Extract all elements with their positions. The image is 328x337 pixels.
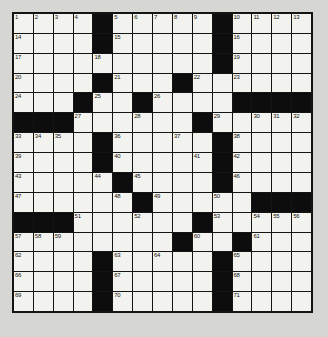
letter-cell[interactable] [173,292,192,311]
letter-cell[interactable] [173,252,192,271]
letter-cell[interactable]: 40 [113,153,132,172]
letter-cell[interactable] [34,292,53,311]
letter-cell[interactable]: 68 [233,272,252,291]
letter-cell[interactable] [213,93,232,112]
letter-cell[interactable] [193,252,212,271]
letter-cell[interactable] [153,54,172,73]
letter-cell[interactable] [272,173,291,192]
letter-cell[interactable] [54,153,73,172]
letter-cell[interactable] [252,272,271,291]
letter-cell[interactable] [54,173,73,192]
letter-cell[interactable] [34,173,53,192]
letter-cell[interactable]: 49 [153,193,172,212]
letter-cell[interactable] [292,252,311,271]
letter-cell[interactable] [252,292,271,311]
letter-cell[interactable] [153,34,172,53]
letter-cell[interactable]: 43 [14,173,33,192]
letter-cell[interactable]: 25 [93,93,112,112]
letter-cell[interactable]: 19 [233,54,252,73]
letter-cell[interactable] [74,34,93,53]
letter-cell[interactable] [34,272,53,291]
letter-cell[interactable]: 13 [292,14,311,33]
letter-cell[interactable]: 28 [133,113,152,132]
letter-cell[interactable]: 10 [233,14,252,33]
letter-cell[interactable] [93,233,112,252]
letter-cell[interactable] [34,34,53,53]
letter-cell[interactable]: 3 [54,14,73,33]
letter-cell[interactable] [93,213,112,232]
letter-cell[interactable] [133,54,152,73]
letter-cell[interactable]: 47 [14,193,33,212]
letter-cell[interactable] [173,54,192,73]
letter-cell[interactable] [252,74,271,93]
letter-cell[interactable] [74,173,93,192]
letter-cell[interactable] [173,153,192,172]
letter-cell[interactable] [193,193,212,212]
letter-cell[interactable]: 8 [173,14,192,33]
letter-cell[interactable] [153,153,172,172]
letter-cell[interactable] [153,233,172,252]
letter-cell[interactable] [34,193,53,212]
letter-cell[interactable] [292,54,311,73]
letter-cell[interactable]: 26 [153,93,172,112]
letter-cell[interactable]: 65 [233,252,252,271]
letter-cell[interactable]: 53 [213,213,232,232]
letter-cell[interactable] [54,74,73,93]
letter-cell[interactable] [292,272,311,291]
letter-cell[interactable] [74,233,93,252]
letter-cell[interactable] [193,173,212,192]
letter-cell[interactable] [272,133,291,152]
letter-cell[interactable]: 33 [14,133,33,152]
letter-cell[interactable] [292,173,311,192]
letter-cell[interactable]: 51 [74,213,93,232]
letter-cell[interactable]: 24 [14,93,33,112]
letter-cell[interactable]: 63 [113,252,132,271]
letter-cell[interactable] [113,213,132,232]
letter-cell[interactable] [173,113,192,132]
letter-cell[interactable]: 44 [93,173,112,192]
letter-cell[interactable]: 67 [113,272,132,291]
letter-cell[interactable] [252,173,271,192]
letter-cell[interactable]: 7 [153,14,172,33]
letter-cell[interactable] [113,54,132,73]
letter-cell[interactable] [252,54,271,73]
letter-cell[interactable]: 18 [93,54,112,73]
letter-cell[interactable] [292,133,311,152]
letter-cell[interactable] [173,173,192,192]
letter-cell[interactable] [54,272,73,291]
letter-cell[interactable] [173,34,192,53]
letter-cell[interactable] [133,133,152,152]
letter-cell[interactable] [173,213,192,232]
letter-cell[interactable]: 42 [233,153,252,172]
letter-cell[interactable]: 9 [193,14,212,33]
letter-cell[interactable]: 20 [14,74,33,93]
letter-cell[interactable] [292,233,311,252]
letter-cell[interactable] [272,74,291,93]
letter-cell[interactable]: 27 [74,113,93,132]
letter-cell[interactable] [272,252,291,271]
letter-cell[interactable]: 56 [292,213,311,232]
letter-cell[interactable] [133,74,152,93]
letter-cell[interactable] [233,193,252,212]
letter-cell[interactable] [34,54,53,73]
letter-cell[interactable]: 52 [133,213,152,232]
letter-cell[interactable] [74,54,93,73]
letter-cell[interactable]: 66 [14,272,33,291]
letter-cell[interactable] [233,213,252,232]
letter-cell[interactable] [173,272,192,291]
letter-cell[interactable] [233,113,252,132]
letter-cell[interactable] [54,193,73,212]
letter-cell[interactable]: 39 [14,153,33,172]
letter-cell[interactable]: 11 [252,14,271,33]
letter-cell[interactable] [193,34,212,53]
letter-cell[interactable] [153,292,172,311]
letter-cell[interactable] [74,252,93,271]
letter-cell[interactable] [193,292,212,311]
letter-cell[interactable]: 60 [193,233,212,252]
letter-cell[interactable] [193,133,212,152]
letter-cell[interactable] [193,93,212,112]
letter-cell[interactable]: 38 [233,133,252,152]
letter-cell[interactable]: 2 [34,14,53,33]
letter-cell[interactable] [113,93,132,112]
letter-cell[interactable] [34,93,53,112]
